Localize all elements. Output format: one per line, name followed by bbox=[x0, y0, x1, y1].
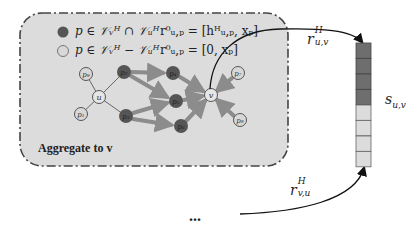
svg-text:p₉: p₉ bbox=[82, 71, 89, 79]
legend-unique-dot bbox=[58, 46, 69, 57]
panel-caption: Aggregate to v bbox=[38, 141, 112, 156]
svg-text:v: v bbox=[209, 91, 214, 100]
svg-text:p₂: p₂ bbox=[120, 69, 127, 77]
node-p1: p₁ bbox=[75, 108, 88, 121]
legend-shared-condition: p ∈ 𝒱ᵥᴴ ∩ 𝒱ᵤᴴ bbox=[75, 24, 159, 38]
vector-s-uv bbox=[356, 43, 371, 167]
node-p2: p₂ bbox=[117, 65, 131, 79]
vector-label: su,v bbox=[385, 91, 406, 107]
svg-text:p₈: p₈ bbox=[236, 117, 243, 125]
node-p3: p₃ bbox=[119, 109, 133, 123]
node-u: u bbox=[93, 91, 106, 104]
svg-text:p₃: p₃ bbox=[122, 113, 129, 121]
node-p5: p₅ bbox=[169, 94, 183, 108]
bottom-arrow-label: rHv,u bbox=[290, 181, 317, 198]
legend-unique-condition: p ∈ 𝒱ᵥᴴ − 𝒱ᵤᴴ bbox=[75, 43, 159, 57]
svg-text:u: u bbox=[96, 93, 101, 102]
node-v: v bbox=[205, 89, 218, 102]
top-arrow-label: rHu,v bbox=[307, 30, 334, 47]
node-p8: p₈ bbox=[234, 114, 247, 127]
svg-text:p₅: p₅ bbox=[172, 98, 179, 106]
node-p6: p₆ bbox=[174, 119, 188, 133]
legend-shared-init: r⁰ᵤ,ₚ = [hᴴᵤ,ₚ, xₚ] bbox=[160, 24, 258, 38]
node-p7: p₇ bbox=[232, 67, 245, 80]
legend-unique-init: r⁰ᵤ,ₚ = [0, xₚ] bbox=[160, 43, 238, 57]
svg-text:p₁: p₁ bbox=[77, 111, 84, 119]
svg-text:p₇: p₇ bbox=[234, 70, 241, 78]
ellipsis: ... bbox=[189, 207, 201, 225]
node-p9: p₉ bbox=[80, 68, 93, 81]
svg-text:p₄: p₄ bbox=[169, 70, 176, 78]
diagram-canvas: p₉ p₁ u p₂ p₃ p₄ p₅ p₆ v p₇ p₈ p ∈ 𝒱ᵥᴴ ∩… bbox=[0, 0, 415, 236]
legend-shared-dot bbox=[58, 27, 69, 38]
svg-text:p₆: p₆ bbox=[177, 123, 184, 131]
node-p4: p₄ bbox=[166, 66, 180, 80]
